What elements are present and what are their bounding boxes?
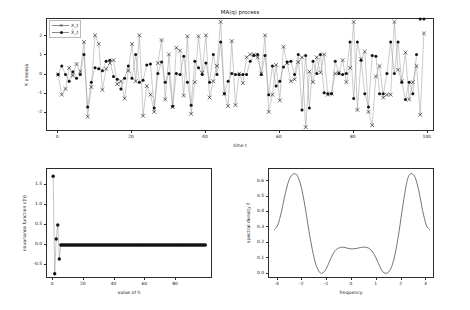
data-point xyxy=(319,53,322,56)
x-tick-mark xyxy=(175,278,176,280)
series-line xyxy=(53,176,205,274)
data-point xyxy=(312,60,315,63)
x-tick-mark xyxy=(277,278,278,280)
y-tick-label: 1 xyxy=(18,52,42,57)
data-point xyxy=(234,73,237,76)
y-tick-label: 0.1 xyxy=(240,255,264,260)
x-tick-mark xyxy=(114,278,115,280)
y-tick-mark xyxy=(44,93,46,94)
x-tick-label: 20 xyxy=(119,134,143,139)
plot-area-ma-process xyxy=(46,18,434,131)
plot-area-covariance-function xyxy=(46,168,212,278)
data-point xyxy=(227,80,230,83)
data-point xyxy=(404,98,407,101)
y-tick-label: 0 xyxy=(18,71,42,76)
y-tick-mark xyxy=(266,257,268,258)
x-tick-label: 60 xyxy=(132,281,156,286)
y-tick-mark xyxy=(44,54,46,55)
data-point xyxy=(75,77,78,80)
x-tick-label: 40 xyxy=(193,134,217,139)
y-tick-mark xyxy=(266,211,268,212)
data-point xyxy=(352,97,355,100)
data-point xyxy=(282,65,285,68)
data-point xyxy=(264,54,267,57)
data-point xyxy=(308,107,311,110)
y-tick-mark xyxy=(44,264,46,265)
x-tick-mark xyxy=(351,278,352,280)
data-point xyxy=(378,92,381,95)
y-tick-label: -0.5 xyxy=(18,261,42,266)
data-point xyxy=(256,53,259,56)
data-point xyxy=(215,73,218,76)
x-tick-mark xyxy=(301,278,302,280)
data-point xyxy=(90,81,93,84)
legend-label: X_t xyxy=(71,22,78,29)
data-point xyxy=(204,243,207,246)
data-point xyxy=(323,91,326,94)
data-point xyxy=(149,63,152,66)
data-point xyxy=(289,60,292,63)
data-point xyxy=(337,72,340,75)
x-tick-label: 20 xyxy=(71,281,95,286)
legend-x-marker-icon: × xyxy=(52,22,69,29)
y-tick-label: 0.5 xyxy=(240,193,264,198)
spectral-density-curve xyxy=(274,174,430,274)
data-point xyxy=(286,61,289,64)
y-tick-mark xyxy=(266,242,268,243)
data-point xyxy=(408,81,411,84)
data-point xyxy=(130,77,133,80)
x-tick-label: 100 xyxy=(415,134,439,139)
data-point xyxy=(82,53,85,56)
x-tick-mark xyxy=(353,131,354,133)
x-tick-mark xyxy=(205,131,206,133)
data-point xyxy=(275,85,278,88)
data-point xyxy=(127,64,130,67)
x-tick-label: 80 xyxy=(163,281,187,286)
y-tick-label: -2 xyxy=(18,109,42,114)
x-axis-label-ma-process: time t xyxy=(46,143,434,148)
data-point xyxy=(55,237,58,240)
data-point xyxy=(241,73,244,76)
data-point xyxy=(51,175,54,178)
data-point xyxy=(382,92,385,95)
x-tick-label: 80 xyxy=(341,134,365,139)
data-point xyxy=(179,73,182,76)
data-point xyxy=(116,78,119,81)
legend-item-0[interactable]: ×X_t xyxy=(52,22,78,29)
data-point xyxy=(278,80,281,83)
y-tick-mark xyxy=(44,74,46,75)
x-tick-label: 2 xyxy=(389,281,413,286)
x-axis-label-spectral-density: frequency xyxy=(268,290,434,295)
x-tick-mark xyxy=(376,278,377,280)
series-line xyxy=(58,42,416,110)
data-point xyxy=(204,62,207,65)
plot-area-spectral-density xyxy=(268,168,434,278)
data-point xyxy=(112,75,115,78)
data-point xyxy=(53,272,56,275)
data-point xyxy=(79,73,82,76)
data-point xyxy=(411,92,414,95)
y-tick-label: 2 xyxy=(18,33,42,38)
data-point xyxy=(57,73,60,76)
data-point xyxy=(315,72,318,75)
data-point xyxy=(175,72,178,75)
data-point xyxy=(71,70,74,73)
x-tick-mark xyxy=(427,131,428,133)
data-point xyxy=(190,104,193,107)
y-tick-mark xyxy=(266,196,268,197)
figure-canvas: MA(q) processtime tX process020406080100… xyxy=(0,0,470,310)
x-tick-label: -2 xyxy=(289,281,313,286)
data-point xyxy=(156,72,159,75)
legend-label: X̂_t xyxy=(71,29,78,36)
data-point xyxy=(219,40,222,43)
data-point xyxy=(119,87,122,90)
data-point xyxy=(145,63,148,66)
data-point xyxy=(212,53,215,56)
legend-dot-marker-icon xyxy=(52,29,69,36)
data-point xyxy=(182,55,185,58)
x-tick-mark xyxy=(279,131,280,133)
y-tick-label: 0.4 xyxy=(240,208,264,213)
legend-item-1[interactable]: X̂_t xyxy=(52,29,78,36)
y-tick-label: 0.0 xyxy=(240,270,264,275)
data-point xyxy=(134,53,137,56)
